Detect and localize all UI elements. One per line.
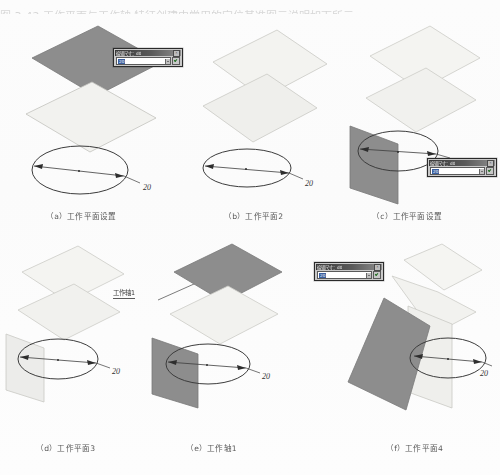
dialog-title-a: 编辑尺寸：d0	[116, 50, 141, 55]
dimension-value-d: 20	[112, 367, 120, 376]
caption-e: （e）工作轴1	[186, 442, 237, 453]
plane-light-b-bottom[interactable]	[203, 74, 317, 142]
close-icon[interactable]: ×	[487, 160, 494, 167]
dialog-body-a: 20	[115, 56, 181, 65]
dimension-arrow-b	[205, 164, 303, 179]
dimension-input-c[interactable]: 20	[430, 167, 485, 175]
plane-light-e-mid[interactable]	[170, 286, 278, 344]
dialog-title-f: 编辑尺寸：d0	[317, 264, 342, 269]
panel-b: 20	[185, 18, 335, 203]
panel-a-drawing: 20	[10, 18, 180, 203]
panel-e: 20	[150, 242, 315, 407]
check-icon[interactable]	[373, 271, 381, 279]
panel-e-drawing: 20	[150, 242, 315, 407]
plane-light-a[interactable]	[26, 82, 156, 152]
check-icon[interactable]	[486, 167, 494, 175]
dialog-title-c: 编辑尺寸：d0	[430, 160, 455, 165]
dimension-value-e: 20	[262, 372, 270, 381]
dimension-input-f[interactable]: 20	[317, 271, 372, 279]
caption-a: （a）工作平面设置	[46, 210, 116, 221]
panel-d-drawing: 20	[6, 242, 166, 407]
panel-b-drawing: 20	[185, 18, 335, 203]
plane-dark-e-vertical[interactable]	[152, 338, 198, 408]
dimension-dialog-a[interactable]: 编辑尺寸：d0 × 20	[113, 48, 183, 67]
panel-f: 20 编辑尺寸：d0 × 20	[296, 242, 496, 412]
check-icon[interactable]	[172, 57, 180, 65]
dimension-value-f: 20	[480, 369, 488, 378]
caption-c: （c）工作平面设置	[372, 210, 442, 221]
panel-d: 20	[6, 242, 166, 407]
panel-c: 20 编辑尺寸：d0 × 20	[332, 18, 497, 203]
dimension-dialog-f[interactable]: 编辑尺寸：d0 × 20	[314, 262, 384, 281]
dimension-input-value-f: 20	[319, 273, 326, 278]
sketch-ellipse-b[interactable]	[203, 149, 291, 187]
dimension-dialog-c[interactable]: 编辑尺寸：d0 × 20	[427, 158, 497, 177]
caption-d: （d）工作平面3	[36, 442, 95, 453]
dimension-input-value-a: 20	[118, 59, 125, 64]
plane-light-d-mid[interactable]	[18, 284, 120, 340]
dimension-value-b: 20	[305, 179, 313, 188]
caption-b: （b）工作平面2	[224, 210, 283, 221]
dimension-input-a[interactable]: 20	[116, 57, 171, 65]
caption-f: （f）工作平面4	[386, 442, 443, 453]
dimension-input-value-c: 20	[432, 169, 439, 174]
close-icon[interactable]: ×	[374, 264, 381, 271]
sketch-ellipse-a[interactable]	[32, 146, 128, 194]
panel-a: 20 编辑尺寸：d0 × 20	[10, 18, 180, 203]
chevron-down-icon[interactable]	[165, 59, 170, 64]
chevron-down-icon[interactable]	[479, 169, 484, 174]
close-icon[interactable]: ×	[173, 50, 180, 57]
plane-light-f-top[interactable]	[404, 244, 482, 290]
dialog-body-f: 20	[316, 270, 382, 279]
plane-light-c-bottom[interactable]	[366, 68, 476, 132]
figure-workplane-steps: 20 编辑尺寸：d0 × 20 （a）工作平面设置	[0, 0, 500, 475]
plane-light-d-vertical[interactable]	[6, 334, 44, 402]
callout-label-work-axis: 工作轴1	[113, 288, 135, 299]
dialog-body-c: 20	[429, 166, 495, 175]
plane-dark-c-vertical[interactable]	[350, 126, 398, 204]
dimension-value-a: 20	[143, 183, 151, 192]
chevron-down-icon[interactable]	[366, 273, 371, 278]
